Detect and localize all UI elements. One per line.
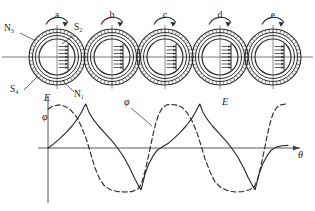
stator-slot-tick <box>280 30 281 33</box>
stator-slot-tick <box>189 49 192 50</box>
stator-slot-tick <box>208 32 209 35</box>
stator-slot-tick <box>186 70 189 72</box>
stator-slot-tick <box>30 49 33 50</box>
position-label-c: c <box>163 9 168 20</box>
stator-slot-tick <box>36 73 39 75</box>
stator-slot-tick <box>196 42 199 44</box>
pole-leader-line-n3 <box>20 33 36 41</box>
stator-slot-tick <box>283 32 284 35</box>
stator-slot-tick <box>81 64 84 65</box>
stator-slot-tick <box>91 39 94 41</box>
rotor-b <box>84 17 140 89</box>
curve-label-phi-mid: φ <box>124 96 130 107</box>
stator-slot-tick <box>255 76 257 79</box>
stator-slot-tick <box>157 30 158 33</box>
stator-slot-tick <box>189 64 192 65</box>
stator-slot-tick <box>45 79 46 82</box>
stator-slot-tick <box>202 76 204 79</box>
stator-slot-tick <box>178 78 180 81</box>
stator-slot-tick <box>193 49 196 50</box>
stator-slot-tick <box>205 33 207 36</box>
stator-slot-tick <box>153 32 154 35</box>
stator-slot-tick <box>30 64 33 65</box>
stator-slot-tick <box>32 67 35 68</box>
stator-slot-tick <box>199 39 202 41</box>
stator-slot-tick <box>280 81 281 84</box>
stator-slot-tick <box>67 32 68 35</box>
stator-slot-tick <box>122 32 123 35</box>
stator-slot-tick <box>87 45 90 46</box>
stator-slot-tick <box>249 42 252 44</box>
stator-slot-tick <box>79 67 82 68</box>
stator-slot-tick <box>32 45 35 46</box>
stator-slot-tick <box>76 39 79 41</box>
stator-slot-tick <box>248 67 251 68</box>
stator-slot-tick <box>181 76 183 79</box>
figure-canvas: abcdeN₃S₂S₄N₁EφφEθ <box>0 0 315 211</box>
position-label-a: a <box>55 9 60 20</box>
stator-slot-tick <box>227 81 228 84</box>
stator-slot-tick <box>141 42 144 44</box>
pole-label-n3: N₃ <box>4 23 14 33</box>
stator-slot-tick <box>97 78 99 81</box>
stator-slot-tick <box>119 30 120 33</box>
stator-slot-tick <box>289 76 291 79</box>
stator-slot-tick <box>81 49 84 50</box>
stator-slot-tick <box>91 73 94 75</box>
stator-slot-tick <box>258 33 260 36</box>
stator-slot-tick <box>70 33 72 36</box>
stator-slot-tick <box>76 73 79 75</box>
stator-slot-tick <box>94 36 96 39</box>
stator-slot-tick <box>73 76 75 79</box>
stator-slot-tick <box>85 64 88 65</box>
stator-slot-tick <box>289 36 291 39</box>
stator-slot-tick <box>133 42 136 44</box>
stator-slot-tick <box>141 70 144 72</box>
stator-slot-tick <box>202 36 204 39</box>
stator-slot-tick <box>199 73 202 75</box>
stator-slot-tick <box>100 32 101 35</box>
stator-slot-tick <box>78 42 81 44</box>
stator-slot-tick <box>265 30 266 33</box>
stator-slot-tick <box>153 79 154 82</box>
stator-slot-tick <box>125 33 127 36</box>
stator-slot-tick <box>283 79 284 82</box>
pole-leader-line-s4 <box>24 76 38 90</box>
stator-slot-tick <box>265 81 266 84</box>
stator-slot-tick <box>134 45 137 46</box>
stator-slot-tick <box>178 33 180 36</box>
stator-slot-tick <box>249 70 252 72</box>
stator-slot-tick <box>286 33 288 36</box>
stator-slot-tick <box>64 30 65 33</box>
stator-slot-tick <box>227 30 228 33</box>
stator-slot-tick <box>236 36 238 39</box>
stator-slot-tick <box>119 81 120 84</box>
pole-label-n1: N₁ <box>74 89 84 99</box>
stator-slot-tick <box>42 33 44 36</box>
rotation-arrowhead <box>118 22 124 27</box>
stator-slot-tick <box>186 42 189 44</box>
stator-slot-tick <box>144 73 147 75</box>
stator-slot-tick <box>195 67 198 68</box>
stator-slot-tick <box>131 73 134 75</box>
stator-slot-tick <box>236 76 238 79</box>
curve-label-theta: θ <box>298 149 303 160</box>
stator-slot-tick <box>33 42 36 44</box>
stator-slot-tick <box>39 76 41 79</box>
stator-slot-tick <box>252 73 255 75</box>
stator-slot-tick <box>133 70 136 72</box>
stator-slot-tick <box>261 32 262 35</box>
stator-slot-tick <box>230 32 231 35</box>
rotor-e <box>245 17 301 89</box>
stator-slot-tick <box>150 78 152 81</box>
stator-slot-tick <box>193 64 196 65</box>
stator-slot-tick <box>239 73 242 75</box>
stator-slot-tick <box>187 45 190 46</box>
stator-slot-tick <box>181 36 183 39</box>
stator-slot-tick <box>128 76 130 79</box>
stator-slot-tick <box>45 32 46 35</box>
stator-slot-tick <box>230 79 231 82</box>
stator-slot-tick <box>292 73 295 75</box>
stator-slot-tick <box>49 81 50 84</box>
stator-slot-tick <box>295 45 298 46</box>
